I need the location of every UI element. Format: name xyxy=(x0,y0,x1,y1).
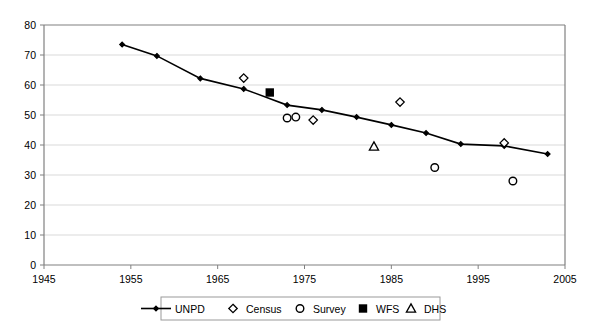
data-point-survey xyxy=(509,177,517,185)
legend-marker-wfs xyxy=(359,304,367,312)
data-point-wfs xyxy=(266,88,274,96)
chart-container: 01020304050607080 1945195519651975198519… xyxy=(0,0,600,332)
series-wfs xyxy=(266,88,274,96)
y-tick-label: 50 xyxy=(24,109,36,121)
x-tick-label: 1965 xyxy=(206,273,230,285)
y-tick-label: 10 xyxy=(24,229,36,241)
data-point-survey xyxy=(431,164,439,172)
y-tick-label: 60 xyxy=(24,79,36,91)
y-tick-label: 20 xyxy=(24,199,36,211)
x-tick-label: 2005 xyxy=(553,273,577,285)
y-tick-label: 40 xyxy=(24,139,36,151)
legend-label-survey: Survey xyxy=(313,303,346,315)
y-tick-label: 70 xyxy=(24,49,36,61)
y-tick-label: 80 xyxy=(24,19,36,31)
line-chart: 01020304050607080 1945195519651975198519… xyxy=(0,0,600,332)
legend-marker-survey xyxy=(296,305,304,313)
x-tick-label: 1945 xyxy=(32,273,56,285)
legend-label-wfs: WFS xyxy=(376,303,399,315)
legend-label-unpd: UNPD xyxy=(175,303,205,315)
x-tick-label: 1975 xyxy=(293,273,317,285)
x-tick-label: 1995 xyxy=(466,273,490,285)
x-tick-label: 1955 xyxy=(119,273,143,285)
y-tick-label: 30 xyxy=(24,169,36,181)
data-point-survey xyxy=(283,114,291,122)
y-tick-label: 0 xyxy=(30,259,36,271)
data-point-survey xyxy=(292,113,300,121)
chart-legend: UNPDCensusSurveyWFSDHS xyxy=(141,297,446,320)
x-tick-label: 1985 xyxy=(380,273,404,285)
legend-label-census: Census xyxy=(246,303,282,315)
legend-label-dhs: DHS xyxy=(424,303,446,315)
